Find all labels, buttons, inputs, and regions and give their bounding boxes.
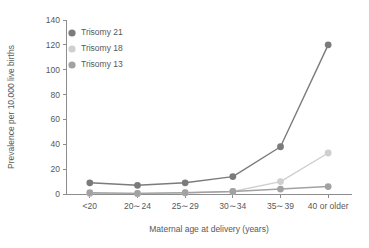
x-tick-label: <20 — [83, 201, 98, 211]
data-point-trisomy-13-0[interactable] — [86, 189, 93, 196]
data-point-trisomy-18-4[interactable] — [277, 178, 284, 185]
y-tick-label: 80 — [51, 90, 61, 100]
y-tick-label: 100 — [46, 65, 60, 75]
data-point-trisomy-21-5[interactable] — [325, 41, 332, 48]
data-point-trisomy-18-5[interactable] — [325, 150, 332, 157]
legend-marker-trisomy-13 — [68, 61, 75, 68]
data-point-trisomy-13-3[interactable] — [229, 188, 236, 195]
y-tick-label: 120 — [46, 40, 60, 50]
data-point-trisomy-21-0[interactable] — [86, 179, 93, 186]
x-tick-label: 35∼39 — [267, 201, 294, 211]
series-line-trisomy-18 — [90, 153, 328, 193]
data-point-trisomy-13-4[interactable] — [277, 186, 284, 193]
legend-marker-trisomy-18 — [68, 45, 75, 52]
data-point-trisomy-21-3[interactable] — [229, 173, 236, 180]
y-axis-title: Prevalence per 10,000 live births — [6, 45, 16, 169]
y-tick-label: 0 — [55, 189, 60, 199]
data-point-trisomy-13-2[interactable] — [182, 189, 189, 196]
y-tick-label: 60 — [51, 114, 61, 124]
legend-label-trisomy-18: Trisomy 18 — [81, 43, 123, 53]
series-line-trisomy-21 — [90, 45, 328, 185]
data-point-trisomy-21-2[interactable] — [182, 179, 189, 186]
x-tick-label: 25∼29 — [172, 201, 199, 211]
data-point-trisomy-13-1[interactable] — [134, 190, 141, 197]
legend-marker-trisomy-21 — [68, 29, 75, 36]
x-axis-title: Maternal age at delivery (years) — [149, 224, 269, 234]
legend-label-trisomy-13: Trisomy 13 — [81, 59, 123, 69]
data-point-trisomy-21-1[interactable] — [134, 182, 141, 189]
chart-canvas: 020406080100120140<2020∼2425∼2930∼3435∼3… — [0, 0, 369, 248]
data-point-trisomy-21-4[interactable] — [277, 143, 284, 150]
y-tick-label: 20 — [51, 164, 61, 174]
data-point-trisomy-13-5[interactable] — [325, 183, 332, 190]
x-tick-label: 30∼34 — [219, 201, 246, 211]
series-line-trisomy-13 — [90, 187, 328, 194]
y-tick-label: 40 — [51, 139, 61, 149]
legend-label-trisomy-21: Trisomy 21 — [81, 27, 123, 37]
y-tick-label: 140 — [46, 15, 60, 25]
prevalence-line-chart: 020406080100120140<2020∼2425∼2930∼3435∼3… — [0, 0, 369, 248]
x-tick-label: 40 or older — [308, 201, 349, 211]
x-tick-label: 20∼24 — [124, 201, 151, 211]
